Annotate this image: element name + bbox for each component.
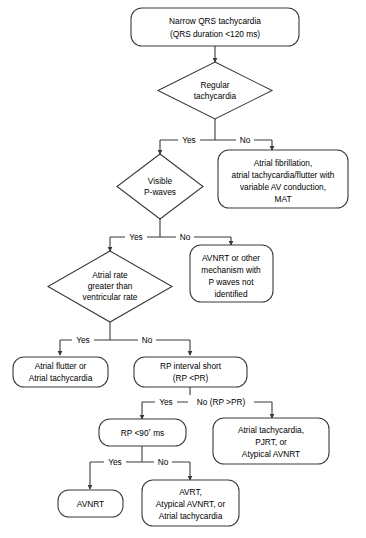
afib-line-3: variable AV conduction, [240,182,326,192]
node-avnrt-other: AVNRT or other mechanism with P waves no… [190,245,273,302]
node-regular-tachycardia: Regular tachycardia [158,62,272,119]
edge-label-atrialrate-yes: Yes [76,335,90,345]
start-box [131,8,299,46]
edge-label-rp90-no: No [158,457,169,467]
pjrt-line-3: Atypical AVNRT [242,449,300,459]
edge-label-rp-no: No (RP >PR) [197,397,246,407]
pjrt-line-2: PJRT, or [255,437,287,447]
afib-line-4: MAT [275,194,292,204]
node-avrt: AVRT, Atypical AVNRT, or Atrial tachycar… [142,480,239,526]
narrow-qrs-tachycardia-flowchart: Yes No Yes No Yes No Yes No (RP >PR) Yes… [0,0,366,538]
node-start: Narrow QRS tachycardia (QRS duration <12… [131,8,299,46]
afib-line-1: Atrial fibrillation, [254,158,313,168]
edge-label-pwaves-yes: Yes [129,232,143,242]
edge-label-pwaves-no: No [180,232,191,242]
edge-label-atrialrate-no: No [142,335,153,345]
start-line-1: Narrow QRS tachycardia [169,16,261,26]
node-atrial-rate-greater: Atrial rate greater than ventricular rat… [48,251,172,322]
start-line-2: (QRS duration <120 ms) [170,29,260,39]
edge-label-rp90-yes: Yes [108,457,122,467]
node-atrial-flutter: Atrial flutter or Atrial tachycardia [13,357,108,387]
edge-label-regular-yes: Yes [182,135,196,145]
node-avnrt: AVNRT [58,490,123,517]
avnrt-other-line-1: AVNRT or other [202,253,260,263]
node-rp-interval-short: RP interval short (RP <PR) [134,357,247,387]
rp90-tail: ms [151,428,164,438]
node-atrial-tach-pjrt: Atrial tachycardia, PJRT, or Atypical AV… [213,418,329,464]
avnrt-other-line-2: mechanism with [201,265,261,275]
atrialrate-line-2: greater than [88,281,133,291]
edge-label-rp-yes: Yes [159,397,173,407]
flutter-line-1: Atrial flutter or [35,361,87,371]
avrt-line-3: Atrial tachycardia [159,511,223,521]
avnrt-other-line-4: identified [214,289,248,299]
avrt-line-1: AVRT, [179,487,202,497]
atrialrate-line-1: Atrial rate [92,270,128,280]
rp-line-1: RP interval short [160,361,222,371]
atrialrate-line-3: ventricular rate [83,292,138,302]
regular-line-2: tachycardia [194,91,237,101]
avnrt-line-1: AVNRT [77,499,104,509]
node-afib: Atrial fibrillation, atrial tachycardia/… [218,150,348,208]
flutter-line-2: Atrial tachycardia [29,373,93,383]
rp90-main: RP <90 [121,428,149,438]
rp-line-2: (RP <PR) [173,373,209,383]
node-rp-90ms: RP <90* ms [99,419,186,446]
afib-line-2: atrial tachycardia/flutter with [232,170,335,180]
pwaves-line-1: Visible [148,176,173,186]
pjrt-line-1: Atrial tachycardia, [238,425,304,435]
avnrt-other-line-3: P waves not [208,277,254,287]
node-visible-p-waves: Visible P-waves [117,154,203,219]
rp90-label: RP <90* ms [121,428,164,438]
regular-line-1: Regular [200,80,229,90]
pwaves-line-2: P-waves [144,187,176,197]
edge-label-regular-no: No [240,135,251,145]
avrt-line-2: Atypical AVNRT, or [156,499,226,509]
